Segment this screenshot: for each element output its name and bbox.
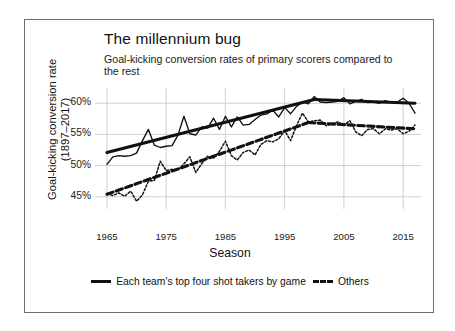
trendline-others xyxy=(107,123,308,195)
chart-legend: Each team's top four shot takers by game… xyxy=(25,276,435,287)
plot-area: 45%50%55%60%196519751985199520052015 xyxy=(25,20,435,314)
legend-label-top-four: Each team's top four shot takers by game xyxy=(116,276,306,287)
trendline-others xyxy=(308,123,415,129)
legend-label-others: Others xyxy=(338,276,369,287)
solid-line-swatch-icon xyxy=(91,280,111,283)
x-axis-tick-label: 1965 xyxy=(87,231,127,242)
y-axis-tick-label: 50% xyxy=(57,159,91,170)
x-axis-tick-label: 1985 xyxy=(205,231,245,242)
y-axis-tick-label: 60% xyxy=(57,96,91,107)
x-axis-tick-label: 2015 xyxy=(383,231,423,242)
legend-item-others: Others xyxy=(313,276,369,287)
x-axis-tick-label: 2005 xyxy=(324,231,364,242)
series-line-top-four xyxy=(107,96,415,164)
chart-figure: The millennium bug Goal-kicking conversi… xyxy=(24,19,434,313)
legend-item-top-four: Each team's top four shot takers by game xyxy=(91,276,306,287)
y-axis-tick-label: 55% xyxy=(57,127,91,138)
x-axis-label: Season xyxy=(25,246,435,260)
trendline-top-four xyxy=(107,99,314,152)
dashed-line-swatch-icon xyxy=(313,280,333,283)
x-axis-tick-label: 1995 xyxy=(265,231,305,242)
x-axis-tick-label: 1975 xyxy=(146,231,186,242)
y-axis-tick-label: 45% xyxy=(57,190,91,201)
